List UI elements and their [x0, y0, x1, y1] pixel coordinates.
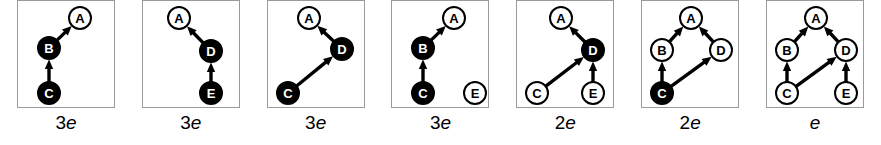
- graph-node-D: D: [331, 38, 353, 60]
- caption-symbol: e: [316, 112, 327, 133]
- caption-symbol: e: [565, 112, 576, 133]
- caption-count: 3: [55, 112, 66, 133]
- caption-symbol: e: [810, 112, 821, 133]
- graph-panel-5: ADCE2e: [505, 0, 625, 132]
- graph-canvas: ABDC: [642, 1, 738, 107]
- caption-symbol: e: [191, 112, 202, 133]
- node-label-D: D: [589, 43, 598, 58]
- graph-node-D: D: [710, 39, 732, 61]
- panel-caption: 3e: [305, 113, 326, 132]
- node-label-C: C: [657, 86, 667, 101]
- graph-frame: ABC: [17, 0, 115, 108]
- graph-node-C: C: [776, 82, 798, 104]
- graph-node-A: A: [298, 7, 320, 29]
- graph-frame: ABDCE: [766, 0, 864, 108]
- graph-node-B: B: [38, 37, 60, 59]
- caption-count: 2: [555, 112, 566, 133]
- graph-node-C: C: [651, 82, 673, 104]
- edge-E-to-D: [842, 62, 850, 84]
- graph-node-D: D: [582, 39, 604, 61]
- node-label-D: D: [716, 43, 725, 58]
- edge-B-to-A: [56, 26, 72, 41]
- panel-caption: 3e: [180, 113, 201, 132]
- graph-node-C: C: [526, 82, 548, 104]
- node-label-B: B: [44, 41, 53, 56]
- node-label-A: A: [174, 11, 184, 26]
- edge-D-to-A: [317, 26, 335, 43]
- edge-D-to-A: [824, 26, 840, 43]
- graph-frame: ADC: [267, 0, 365, 108]
- edge-D-to-A: [699, 26, 715, 43]
- graph-node-B: B: [651, 39, 673, 61]
- panel-caption: 3e: [430, 113, 451, 132]
- graph-frame: ABCE: [391, 0, 489, 108]
- panel-caption: 3e: [55, 113, 76, 132]
- graph-node-E: E: [464, 82, 486, 104]
- node-label-A: A: [686, 11, 696, 26]
- edge-E-to-D: [207, 63, 215, 84]
- graph-panel-2: ADE3e: [131, 0, 251, 132]
- graph-panel-7: ABDCEe: [755, 0, 875, 132]
- edge-C-to-B: [658, 62, 666, 84]
- node-label-A: A: [557, 11, 567, 26]
- node-label-A: A: [811, 11, 821, 26]
- graph-node-A: A: [805, 7, 827, 29]
- node-label-B: B: [657, 43, 666, 58]
- node-label-A: A: [304, 11, 314, 26]
- graph-node-B: B: [776, 39, 798, 61]
- graph-node-C: C: [38, 82, 60, 104]
- node-label-C: C: [419, 86, 429, 101]
- edge-B-to-A: [430, 26, 446, 41]
- graph-frame: ABDC: [641, 0, 739, 108]
- graph-node-D: D: [835, 39, 857, 61]
- graph-node-A: A: [168, 7, 190, 29]
- node-label-E: E: [842, 86, 851, 101]
- node-label-C: C: [283, 86, 293, 101]
- caption-symbol: e: [66, 112, 77, 133]
- graph-canvas: ADC: [268, 1, 364, 107]
- node-label-A: A: [450, 11, 460, 26]
- graph-node-C: C: [412, 82, 434, 104]
- node-label-C: C: [44, 86, 54, 101]
- graph-panel-3: ADC3e: [256, 0, 376, 132]
- node-label-D: D: [206, 44, 215, 59]
- edge-B-to-A: [669, 27, 684, 43]
- edge-C-to-D: [295, 56, 333, 87]
- edge-D-to-A: [187, 26, 204, 44]
- graph-panel-4: ABCE3e: [380, 0, 500, 132]
- edge-C-to-D: [545, 57, 584, 87]
- graph-panel-strip: ABC3eADE3eADC3eABCE3eADCE2eABDC2eABDCEe: [0, 0, 881, 145]
- graph-canvas: ABCE: [392, 1, 488, 107]
- graph-canvas: ABDCE: [767, 1, 863, 107]
- node-label-C: C: [533, 86, 543, 101]
- graph-frame: ADE: [142, 0, 240, 108]
- edge-D-to-A: [569, 26, 586, 43]
- edge-B-to-A: [793, 27, 808, 43]
- edge-C-to-B: [419, 60, 427, 84]
- graph-node-A: A: [550, 7, 572, 29]
- caption-count: 2: [680, 112, 691, 133]
- graph-frame: ADCE: [516, 0, 614, 108]
- graph-node-D: D: [200, 40, 222, 62]
- node-label-A: A: [75, 11, 85, 26]
- panel-caption: e: [810, 113, 821, 132]
- graph-canvas: ABC: [18, 1, 114, 107]
- edge-C-to-D: [795, 57, 837, 88]
- edge-C-to-B: [45, 60, 53, 84]
- graph-node-A: A: [680, 7, 702, 29]
- graph-canvas: ADCE: [517, 1, 613, 107]
- node-label-D: D: [337, 42, 346, 57]
- node-label-B: B: [419, 41, 428, 56]
- node-label-E: E: [471, 86, 480, 101]
- edge-C-to-B: [783, 62, 791, 84]
- panel-caption: 2e: [680, 113, 701, 132]
- graph-panel-6: ABDC2e: [630, 0, 750, 132]
- edge-C-to-D: [670, 57, 712, 88]
- node-label-E: E: [589, 86, 598, 101]
- graph-node-E: E: [200, 82, 222, 104]
- graph-node-C: C: [277, 82, 299, 104]
- caption-symbol: e: [440, 112, 451, 133]
- graph-node-A: A: [443, 7, 465, 29]
- panel-caption: 2e: [555, 113, 576, 132]
- graph-node-B: B: [412, 37, 434, 59]
